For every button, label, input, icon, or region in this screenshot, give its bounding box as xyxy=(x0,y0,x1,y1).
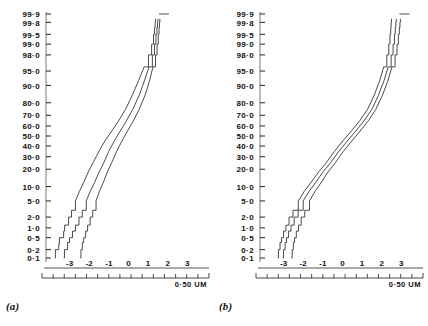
y-axis-tick-label: 10·0 xyxy=(22,183,40,192)
y-axis-tick-label: 20·0 xyxy=(236,165,254,174)
y-axis-tick-label: 10·0 xyxy=(236,183,254,192)
y-axis-tick-label: 60·0 xyxy=(22,122,40,131)
x-axis-tick-label: -1 xyxy=(105,259,113,268)
y-axis-tick-label: 40·0 xyxy=(22,142,40,151)
y-axis-tick-label: 50·0 xyxy=(22,132,40,141)
y-axis-tick-label: 80·0 xyxy=(236,99,254,108)
y-axis-tick-label: 20·0 xyxy=(22,165,40,174)
y-axis-tick-label: 30·0 xyxy=(22,153,40,162)
figure-caption-a: (a) xyxy=(6,300,19,312)
data-curve xyxy=(80,19,160,258)
y-axis-tick-label: 0·5 xyxy=(27,234,40,243)
y-axis-tick-label: 5·0 xyxy=(241,197,254,206)
y-axis-tick-label: 40·0 xyxy=(236,142,254,151)
x-axis-tick-label: 1 xyxy=(360,259,365,268)
y-axis-tick-label: 70·0 xyxy=(236,111,254,120)
data-curve xyxy=(283,19,397,258)
figure-container: 99·999·899·599·098·095·090·080·070·060·0… xyxy=(0,0,428,326)
x-axis-tick-label: -2 xyxy=(300,259,308,268)
y-axis-tick-label: 99·0 xyxy=(236,40,254,49)
y-axis-tick-label: 80·0 xyxy=(22,99,40,108)
y-axis-tick-label: 99·0 xyxy=(22,40,40,49)
x-axis-tick-label: 2 xyxy=(379,259,384,268)
chart-panel-b: 99·999·899·599·098·095·090·080·070·060·0… xyxy=(214,0,428,300)
y-axis-tick-label: 90·0 xyxy=(22,82,40,91)
scale-bar-label: 0·50 UM xyxy=(389,280,421,289)
data-curve xyxy=(278,19,392,258)
y-axis-tick-label: 99·5 xyxy=(236,31,254,40)
y-axis-tick-label: 90·0 xyxy=(236,82,254,91)
y-axis-tick-label: 98·0 xyxy=(22,51,40,60)
y-axis-tick-label: 1·0 xyxy=(27,224,40,233)
y-axis-tick-label: 95·0 xyxy=(236,67,254,76)
probability-plot-a: 99·999·899·599·098·095·090·080·070·060·0… xyxy=(0,0,214,300)
y-axis-tick-label: 99·8 xyxy=(236,19,254,28)
x-axis-tick-label: 0 xyxy=(126,259,131,268)
x-axis-tick-label: 1 xyxy=(146,259,151,268)
y-axis-tick-label: 50·0 xyxy=(236,132,254,141)
y-axis-tick-label: 30·0 xyxy=(236,153,254,162)
x-axis-tick-label: -3 xyxy=(280,259,288,268)
probability-plot-b: 99·999·899·599·098·095·090·080·070·060·0… xyxy=(214,0,428,300)
x-axis-tick-label: 2 xyxy=(165,259,170,268)
data-curve xyxy=(55,19,156,258)
y-axis-tick-label: 99·5 xyxy=(22,31,40,40)
x-axis-tick-label: 3 xyxy=(185,259,190,268)
y-axis-tick-label: 1·0 xyxy=(241,224,254,233)
scale-bar-label: 0·50 UM xyxy=(175,280,207,289)
y-axis-tick-label: 5·0 xyxy=(27,197,40,206)
data-curve xyxy=(291,19,400,258)
x-axis-tick-label: 3 xyxy=(399,259,404,268)
y-axis-tick-label: 99·8 xyxy=(22,19,40,28)
x-axis-tick-label: -1 xyxy=(319,259,327,268)
x-axis-tick-label: -2 xyxy=(86,259,94,268)
figure-caption-b: (b) xyxy=(219,300,232,312)
chart-panel-a: 99·999·899·599·098·095·090·080·070·060·0… xyxy=(0,0,214,300)
y-axis-tick-label: 0·1 xyxy=(27,254,40,263)
data-curve xyxy=(64,19,158,258)
y-axis-tick-label: 60·0 xyxy=(236,122,254,131)
y-axis-tick-label: 0·1 xyxy=(241,254,254,263)
page-bottom-rule xyxy=(0,322,428,325)
x-axis-tick-label: -3 xyxy=(66,259,74,268)
y-axis-tick-label: 98·0 xyxy=(236,51,254,60)
y-axis-tick-label: 70·0 xyxy=(22,111,40,120)
y-axis-tick-label: 2·0 xyxy=(241,213,254,222)
y-axis-tick-label: 2·0 xyxy=(27,213,40,222)
y-axis-tick-label: 0·5 xyxy=(241,234,254,243)
y-axis-tick-label: 95·0 xyxy=(22,67,40,76)
x-axis-tick-label: 0 xyxy=(340,259,345,268)
